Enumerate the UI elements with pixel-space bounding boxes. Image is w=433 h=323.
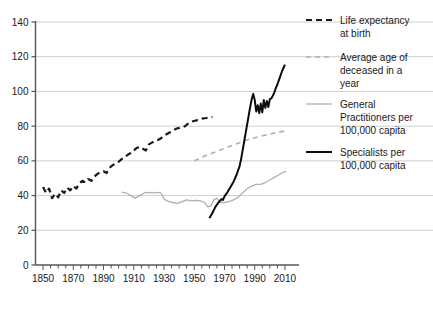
x-tick-label-1970: 1970 — [213, 273, 236, 284]
y-tick-label-0: 0 — [23, 260, 29, 271]
legend-label-1-line-2: year — [340, 78, 360, 89]
x-tick-label-1990: 1990 — [244, 273, 267, 284]
y-tick-label-80: 80 — [17, 121, 29, 132]
y-tick-label-140: 140 — [12, 17, 29, 28]
y-tick-label-100: 100 — [12, 86, 29, 97]
line-chart: 020406080100120140 185018701890191019301… — [0, 0, 433, 323]
legend-label-1-line-1: deceased in a — [340, 65, 403, 76]
x-tick-label-1950: 1950 — [183, 273, 206, 284]
x-tick-label-2010: 2010 — [274, 273, 297, 284]
x-tick-label-1850: 1850 — [32, 273, 55, 284]
legend-label-3-line-1: 100,000 capita — [340, 160, 406, 171]
legend-label-0-line-1: at birth — [340, 28, 371, 39]
y-tick-label-120: 120 — [12, 51, 29, 62]
legend-label-2-line-0: General — [340, 99, 376, 110]
y-tick-label-40: 40 — [17, 190, 29, 201]
x-tick-label-1870: 1870 — [62, 273, 85, 284]
legend-label-0-line-0: Life expectancy — [340, 15, 410, 26]
x-tick-label-1890: 1890 — [92, 273, 115, 284]
legend-label-2-line-2: 100,000 capita — [340, 125, 406, 136]
x-tick-label-1930: 1930 — [153, 273, 176, 284]
chart-container: 020406080100120140 185018701890191019301… — [0, 0, 433, 323]
legend-label-3-line-0: Specialists per — [340, 147, 406, 158]
y-tick-label-60: 60 — [17, 155, 29, 166]
x-axis-tick-labels: 185018701890191019301950197019902010 — [32, 273, 297, 284]
legend-label-2-line-1: Practitioners per — [340, 112, 413, 123]
x-tick-label-1910: 1910 — [123, 273, 146, 284]
y-tick-label-20: 20 — [17, 225, 29, 236]
legend-label-1-line-0: Average age of — [340, 52, 408, 63]
